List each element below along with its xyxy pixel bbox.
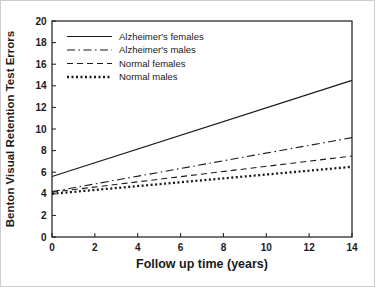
series-line-alzheimer-s-males [52, 138, 352, 192]
legend-label-alzheimers-males: Alzheimer's males [119, 44, 196, 55]
legend-item-normal-males: Normal males [67, 71, 178, 82]
y-axis-tick-label: 14 [35, 80, 47, 91]
x-axis-tick-label: 2 [92, 242, 98, 253]
series-line-normal-females [52, 156, 352, 192]
x-axis-tick-label: 0 [49, 242, 55, 253]
legend: Alzheimer's females Alzheimer's males No… [67, 31, 204, 83]
legend-label-normal-males: Normal males [119, 71, 178, 82]
y-axis-title: Benton Visual Retention Test Errors [4, 31, 16, 227]
legend-label-alzheimers-females: Alzheimer's females [119, 31, 204, 42]
y-axis-tick-label: 0 [41, 232, 47, 243]
y-axis-tick-label: 6 [41, 167, 47, 178]
series-line-normal-males [52, 167, 352, 194]
x-axis-tick-label: 10 [261, 242, 273, 253]
y-axis-tick-label: 4 [41, 188, 47, 199]
y-axis-tick-label: 10 [35, 124, 47, 135]
y-axis-tick-label: 18 [35, 37, 47, 48]
x-axis-tick-label: 14 [346, 242, 358, 253]
y-axis-tick-label: 16 [35, 59, 47, 70]
legend-item-normal-females: Normal females [67, 58, 186, 69]
y-axis-tick-label: 8 [41, 145, 47, 156]
x-axis-title: Follow up time (years) [136, 257, 268, 271]
legend-item-alzheimers-males: Alzheimer's males [67, 44, 196, 55]
y-axis-tick-label: 2 [41, 210, 47, 221]
y-axis-tick-label: 12 [35, 102, 47, 113]
plot-area: 0246810121402468101214161820 [35, 16, 358, 253]
x-axis-tick-label: 12 [304, 242, 316, 253]
x-axis-tick-label: 4 [135, 242, 141, 253]
benton-retention-chart-figure: 0246810121402468101214161820 Alzheimer's… [0, 0, 375, 287]
x-axis-tick-label: 8 [221, 242, 227, 253]
legend-item-alzheimers-females: Alzheimer's females [67, 31, 204, 42]
chart-svg: 0246810121402468101214161820 Alzheimer's… [1, 1, 374, 286]
legend-label-normal-females: Normal females [119, 58, 186, 69]
y-axis-tick-label: 20 [35, 16, 47, 27]
series-line-alzheimer-s-females [52, 80, 352, 176]
x-axis-tick-label: 6 [178, 242, 184, 253]
